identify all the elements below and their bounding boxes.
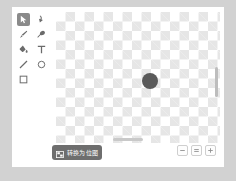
tool-button-select[interactable] (17, 13, 30, 26)
tool-cell-select (14, 12, 32, 27)
zoom-reset-button[interactable] (191, 145, 202, 156)
tool-cell-fill (14, 42, 32, 57)
zoom-out-button[interactable] (177, 145, 188, 156)
tool-button-text[interactable] (35, 43, 48, 56)
eraser-icon (37, 30, 46, 39)
square-icon (19, 75, 28, 84)
minus-icon (179, 147, 186, 154)
circle-icon (37, 60, 46, 69)
zoom-in-button[interactable] (205, 145, 216, 156)
bottom-toolbar: 转换为位图 (12, 143, 224, 167)
canvas-shape-circle[interactable] (142, 73, 158, 89)
zoom-controls (177, 145, 216, 156)
paint-editor-window: 转换为位图 (12, 7, 224, 167)
tool-button-rectangle[interactable] (17, 73, 30, 86)
brush-icon (19, 30, 28, 39)
tool-button-reshape[interactable] (35, 13, 48, 26)
tool-cell-eraser (32, 27, 50, 42)
tool-cell-brush (14, 27, 32, 42)
tool-cell-rectangle (14, 72, 32, 87)
tool-button-ellipse[interactable] (35, 58, 48, 71)
tool-button-fill[interactable] (17, 43, 30, 56)
tool-button-eraser[interactable] (35, 28, 48, 41)
paint-bucket-icon (19, 45, 28, 54)
tool-cell-line (14, 57, 32, 72)
convert-to-bitmap-label: 转换为位图 (67, 150, 98, 156)
tool-cell-ellipse (32, 57, 50, 72)
reshape-node-icon (37, 15, 46, 24)
drawing-canvas[interactable] (56, 12, 220, 143)
tool-button-brush[interactable] (17, 28, 30, 41)
tool-button-line[interactable] (17, 58, 30, 71)
tool-cell-text (32, 42, 50, 57)
tool-cell-reshape (32, 12, 50, 27)
cursor-arrow-icon (19, 15, 28, 24)
plus-icon (207, 147, 214, 154)
canvas-horizontal-scrollbar[interactable] (113, 138, 143, 141)
bitmap-icon (56, 144, 64, 162)
equals-icon (193, 147, 200, 154)
text-icon (37, 45, 46, 54)
tool-grid (14, 12, 50, 87)
canvas-vertical-scrollbar[interactable] (215, 67, 218, 97)
convert-to-bitmap-button[interactable]: 转换为位图 (52, 145, 102, 160)
line-icon (19, 60, 28, 69)
